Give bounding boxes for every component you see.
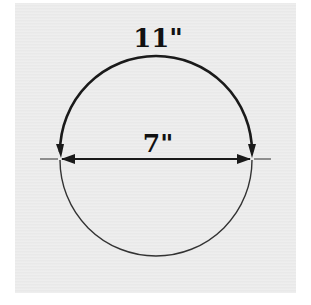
diameter-arrowhead-left <box>61 154 75 164</box>
arc-arrowhead-right <box>248 144 256 158</box>
circle-diagram: 11" 7" <box>0 0 311 305</box>
lower-arc <box>60 160 252 256</box>
arc-arrowhead-left <box>56 144 64 158</box>
diameter-arrowhead-right <box>237 154 251 164</box>
diameter-label: 7" <box>143 129 173 158</box>
arc-length-label: 11" <box>133 23 183 53</box>
